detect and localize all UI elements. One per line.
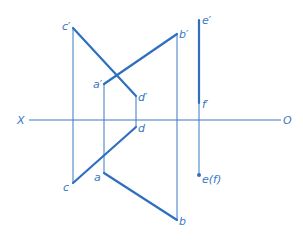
label-c-prime: c′ [62,20,71,33]
label-d-prime: d′ [138,91,148,104]
point-e-f-dot [197,173,201,177]
label-f-prime: f′ [202,98,209,111]
label-d: d [138,122,146,135]
label-e-prime: e′ [202,14,212,27]
axis-label-o: O [283,114,292,127]
orthographic-projection-diagram: X O c′ b′ e′ a′ d′ f′ d c a b e(f) [0,0,303,244]
axis-label-x: X [16,114,25,127]
line-a-prime-b-prime [104,34,177,84]
label-b-prime: b′ [179,28,189,41]
label-a-prime: a′ [93,78,103,91]
label-b: b [179,215,186,228]
label-e-f: e(f) [202,173,221,186]
line-a-b [104,173,177,220]
label-a: a [94,171,101,184]
label-c: c [63,181,69,194]
